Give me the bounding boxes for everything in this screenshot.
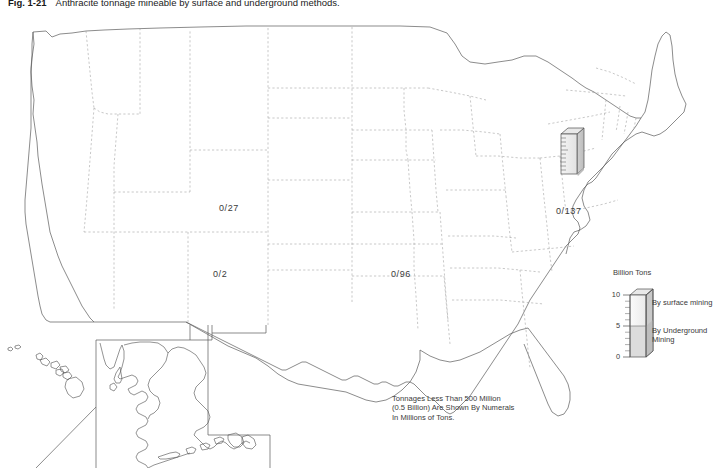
legend-caption-underground-mining: By Underground Mining: [652, 326, 707, 345]
legend: Billion Tons: [606, 268, 714, 366]
map-value-label-colorado: 0/27: [219, 203, 239, 214]
pennsylvania-tonnage-bar: [561, 128, 584, 176]
legend-caption-surface-mining: By surface mining: [652, 298, 712, 307]
legend-title: Billion Tons: [613, 268, 651, 278]
legend-tick-label-0: 0: [606, 353, 620, 361]
map-value-label-arkansas: 0/96: [391, 269, 411, 280]
map-value-label-virginia: 0/137: [556, 206, 582, 217]
alaska-outline: [100, 342, 256, 468]
map-footnote: Tonnages Less Than 500 Million (0.5 Bill…: [392, 394, 557, 422]
map-value-label-new-mexico: 0/2: [213, 269, 227, 280]
map-footnote-line-3: In Millions of Tons.: [392, 413, 557, 422]
state-boundaries: [84, 27, 636, 368]
map-footnote-line-2: (0.5 Billion) Are Shown By Numerals: [392, 403, 557, 412]
legend-caption-underground-line-2: Mining: [652, 335, 707, 344]
hawaii-islands: [8, 345, 84, 398]
legend-caption-underground-line-1: By Underground: [652, 326, 707, 335]
legend-tick-label-5: 5: [606, 322, 620, 330]
figure-root: Fig. 1-21Anthracite tonnage mineable by …: [0, 0, 715, 468]
alaska-hawaii-inset: [0, 325, 290, 468]
map-footnote-line-1: Tonnages Less Than 500 Million: [392, 394, 557, 403]
legend-tick-label-10: 10: [606, 291, 620, 299]
